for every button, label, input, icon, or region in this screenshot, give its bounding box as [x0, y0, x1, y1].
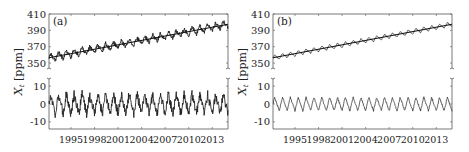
axis-break-mark — [450, 78, 454, 79]
axis-break-mark — [226, 78, 230, 79]
x-tick-label: 1995 — [283, 134, 307, 145]
x-tick-label: 1998 — [82, 134, 106, 145]
x-tick-label: 2007 — [377, 134, 401, 145]
x-tick-label: 1998 — [306, 134, 330, 145]
axis-break-mark — [450, 68, 454, 69]
y-axis-label: Xt [ppm] — [12, 48, 26, 96]
axis-break-mark — [47, 78, 51, 79]
axis-break-mark — [271, 78, 275, 79]
y-axis-label: Xt [ppm] — [236, 48, 250, 96]
y-tick-label: -10 — [254, 116, 270, 127]
y-tick-label: 10 — [257, 81, 270, 92]
axis-break-mark — [47, 68, 51, 69]
axis-break-mark — [226, 68, 230, 69]
panel-label: (b) — [277, 15, 292, 27]
y-tick-label: 0 — [264, 99, 270, 110]
trend-line — [273, 24, 452, 58]
y-tick-label: 370 — [251, 41, 270, 52]
y-tick-label: 10 — [33, 81, 46, 92]
x-tick-label: 2013 — [424, 134, 448, 145]
x-tick-label: 2007 — [153, 134, 177, 145]
y-tick-label: 410 — [251, 9, 270, 20]
y-tick-label: 370 — [27, 41, 46, 52]
x-tick-label: 2001 — [106, 134, 130, 145]
x-tick-label: 2004 — [354, 134, 378, 145]
x-tick-label: 1995 — [59, 134, 83, 145]
x-tick-label: 2001 — [330, 134, 354, 145]
x-tick-label: 2010 — [177, 134, 201, 145]
y-tick-label: -10 — [30, 116, 46, 127]
residual-series — [49, 90, 228, 118]
axis-break-mark — [271, 68, 275, 69]
residual-series — [273, 97, 452, 112]
y-tick-label: 390 — [27, 25, 46, 36]
y-tick-label: 350 — [251, 58, 270, 69]
y-tick-label: 410 — [27, 9, 46, 20]
figure: 350370390410-100101995199820012004200720… — [0, 0, 469, 152]
x-tick-label: 2013 — [200, 134, 224, 145]
x-tick-label: 2010 — [401, 134, 425, 145]
panel-label: (a) — [53, 15, 67, 27]
panel-b: 350370390410-100101995199820012004200720… — [236, 9, 454, 146]
panel-a: 350370390410-100101995199820012004200720… — [12, 9, 230, 146]
x-tick-label: 2004 — [130, 134, 154, 145]
trend-line — [49, 24, 228, 58]
y-tick-label: 390 — [251, 25, 270, 36]
y-tick-label: 350 — [27, 58, 46, 69]
y-tick-label: 0 — [40, 99, 46, 110]
